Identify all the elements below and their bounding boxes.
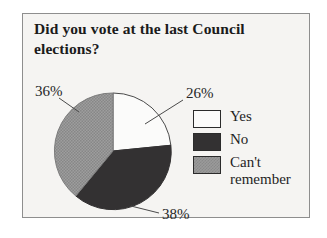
chart-figure: Did you vote at the last Council electio… xyxy=(0,0,327,238)
pie-label-no-pct: 38% xyxy=(162,206,190,219)
legend-item-cant-remember[interactable]: Can't remember xyxy=(193,154,308,188)
legend-label-no: No xyxy=(230,131,248,148)
leader-line-cant-remember xyxy=(59,98,79,112)
legend-item-yes[interactable]: Yes xyxy=(193,108,308,128)
legend-label-yes: Yes xyxy=(230,108,252,125)
pie-label-yes-pct: 26% xyxy=(186,85,214,101)
legend-label-cant-remember: Can't remember xyxy=(230,154,308,188)
legend-swatch-yes-icon xyxy=(193,110,221,128)
legend-swatch-cant-remember-icon xyxy=(193,156,221,174)
pie-slice-yes[interactable] xyxy=(113,93,171,151)
pie-label-cant-remember-pct: 36% xyxy=(35,83,63,99)
chart-legend: Yes No Can't remember xyxy=(193,108,308,191)
chart-panel: Did you vote at the last Council electio… xyxy=(22,13,310,218)
legend-item-no[interactable]: No xyxy=(193,131,308,151)
legend-swatch-no-icon xyxy=(193,133,221,151)
pie-slices xyxy=(54,93,171,210)
leader-line-no xyxy=(131,206,159,213)
